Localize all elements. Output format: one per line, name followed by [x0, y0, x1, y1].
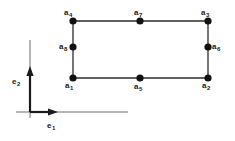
basis-vector-e2-arrowhead: [26, 66, 33, 76]
node-label-a4: a4: [64, 9, 72, 17]
axis-label-e1: e1: [47, 122, 55, 130]
axis-label-e2: e2: [12, 78, 20, 86]
node-label-a6: a6: [212, 43, 220, 51]
node-label-a3: a3: [201, 9, 209, 17]
node-a6: [204, 43, 211, 50]
diagram-svg: [0, 0, 235, 141]
figure-canvas: a1 a2 a3 a4 a5 a6 a7 a8 e1 e2: [0, 0, 235, 141]
node-a7: [136, 17, 143, 24]
node-label-a1: a1: [65, 82, 73, 90]
node-label-a7: a7: [134, 9, 142, 17]
node-a1: [69, 74, 76, 81]
node-a4: [69, 17, 76, 24]
node-label-a8: a8: [59, 43, 67, 51]
node-label-a5: a5: [134, 83, 142, 91]
node-a5: [136, 74, 143, 81]
basis-vector-e1-arrowhead: [48, 108, 58, 115]
node-a8: [69, 43, 76, 50]
node-label-a2: a2: [202, 82, 210, 90]
node-a3: [204, 17, 211, 24]
